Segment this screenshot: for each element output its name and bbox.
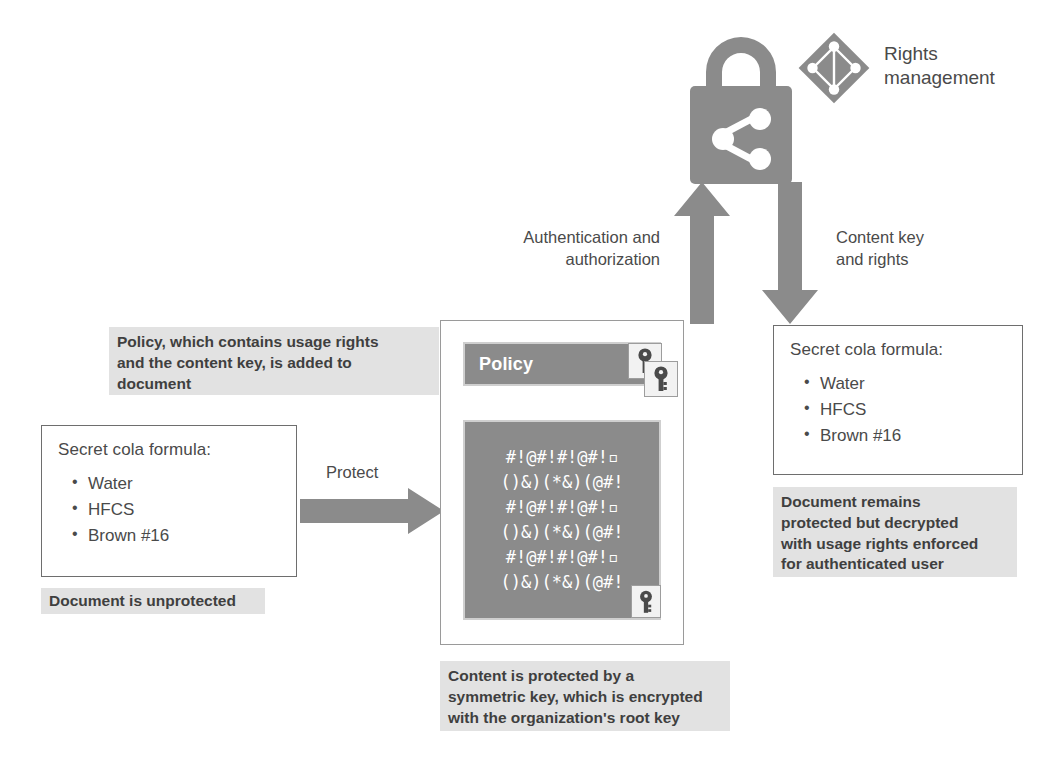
remains-protected-line3: with usage rights enforced (781, 534, 1009, 555)
policy-bar-label: Policy (479, 354, 533, 375)
rights-management-label: Rights management (884, 42, 1044, 90)
cipher-line: #!@#!#!@#!▫ (506, 495, 619, 520)
document-remains-protected-callout: Document remains protected but decrypted… (773, 487, 1017, 577)
authentication-arrow-up (672, 182, 732, 324)
protect-arrow-label: Protect (326, 462, 446, 484)
unprotected-document-card: Secret cola formula: Water HFCS Brown #1… (41, 425, 297, 577)
policy-added-callout: Policy, which contains usage rights and … (109, 327, 439, 395)
document-unprotected-caption: Document is unprotected (41, 588, 265, 614)
protect-arrow-right (300, 488, 444, 534)
key-icon (637, 590, 655, 614)
authentication-label-line2: authorization (455, 249, 660, 271)
consumed-document-card: Secret cola formula: Water HFCS Brown #1… (773, 325, 1023, 475)
cipher-line: #!@#!#!@#!▫ (506, 545, 619, 570)
document-unprotected-caption-text: Document is unprotected (49, 591, 257, 612)
content-key-label-line1: Content key (836, 227, 1026, 249)
remains-protected-line1: Document remains (781, 492, 1009, 513)
key-icon-content (631, 585, 661, 618)
unprotected-document-title: Secret cola formula: (58, 440, 280, 460)
list-item: Water (820, 374, 1006, 394)
list-item: Brown #16 (88, 526, 280, 546)
cipher-line: #!@#!#!@#!▫ (506, 445, 619, 470)
content-key-arrow-label: Content key and rights (836, 227, 1026, 271)
list-item: Water (88, 474, 280, 494)
cipher-line: ()&)(*&)(@#! (501, 570, 624, 595)
list-item: HFCS (88, 500, 280, 520)
key-icon-policy-secondary (644, 361, 678, 397)
remains-protected-line4: for authenticated user (781, 554, 1009, 575)
symmetric-key-callout-line2: symmetric key, which is encrypted (448, 687, 722, 708)
policy-callout-line3: document (117, 374, 431, 395)
authentication-arrow-label: Authentication and authorization (455, 227, 660, 271)
policy-callout-line1: Policy, which contains usage rights (117, 332, 431, 353)
symmetric-key-callout-line1: Content is protected by a (448, 666, 722, 687)
list-item: HFCS (820, 400, 1006, 420)
consumed-document-title: Secret cola formula: (790, 340, 1006, 360)
authentication-label-line1: Authentication and (455, 227, 660, 249)
content-key-arrow-down (760, 182, 820, 324)
diagram-canvas: Rights management Authentication and aut… (0, 0, 1064, 772)
azure-rights-management-diamond-icon (796, 30, 872, 106)
rights-management-label-line1: Rights (884, 42, 1044, 66)
cipher-line: ()&)(*&)(@#! (501, 470, 624, 495)
content-key-label-line2: and rights (836, 249, 1026, 271)
symmetric-key-callout: Content is protected by a symmetric key,… (440, 661, 730, 731)
consumed-document-list: Water HFCS Brown #16 (790, 374, 1006, 446)
lock-with-share-icon (676, 26, 806, 186)
remains-protected-line2: protected but decrypted (781, 513, 1009, 534)
unprotected-document-list: Water HFCS Brown #16 (58, 474, 280, 546)
symmetric-key-callout-line3: with the organization's root key (448, 708, 722, 729)
key-icon (651, 366, 671, 392)
cipher-line: ()&)(*&)(@#! (501, 520, 624, 545)
policy-callout-line2: and the content key, is added to (117, 353, 431, 374)
list-item: Brown #16 (820, 426, 1006, 446)
rights-management-label-line2: management (884, 66, 1044, 90)
